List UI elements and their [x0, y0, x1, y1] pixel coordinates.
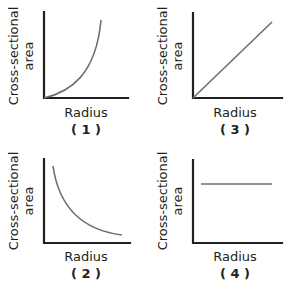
panel-1-ylabel-line2: area [21, 42, 36, 71]
panel-3-caption: ( 3 ) [220, 122, 250, 137]
panel-2-xlabel: Radius [64, 249, 108, 264]
panel-3-ylabel-line1: Cross-sectional [155, 7, 170, 106]
panel-1-xlabel: Radius [64, 105, 108, 120]
panel-1-ylabel-line1: Cross-sectional [6, 7, 21, 106]
panel-2-curve [53, 166, 122, 235]
panel-4-ylabel-line1: Cross-sectional [155, 152, 170, 251]
panel-3-line [193, 22, 272, 98]
panel-2-ylabel-line1: Cross-sectional [6, 152, 21, 251]
panel-1-curve [44, 20, 101, 98]
panel-2: Radius ( 2 ) Cross-sectional area [6, 152, 130, 281]
panel-4-axes [193, 160, 282, 243]
panel-4: Radius ( 4 ) Cross-sectional area [155, 152, 282, 281]
panel-2-axes [44, 159, 130, 243]
panel-2-ylabel-line2: area [21, 187, 36, 216]
panel-3: Radius ( 3 ) Cross-sectional area [155, 7, 282, 137]
panel-4-caption: ( 4 ) [220, 266, 250, 281]
panel-1: Radius ( 1 ) Cross-sectional area [6, 7, 128, 137]
panel-4-ylabel-line2: area [170, 187, 185, 216]
panel-1-caption: ( 1 ) [71, 122, 101, 137]
panel-4-xlabel: Radius [213, 249, 257, 264]
figure-canvas: Radius ( 1 ) Cross-sectional area Radius… [0, 0, 297, 284]
panel-3-xlabel: Radius [213, 105, 257, 120]
panel-2-caption: ( 2 ) [71, 266, 101, 281]
panel-1-axes [44, 12, 128, 98]
panel-3-ylabel-line2: area [170, 42, 185, 71]
